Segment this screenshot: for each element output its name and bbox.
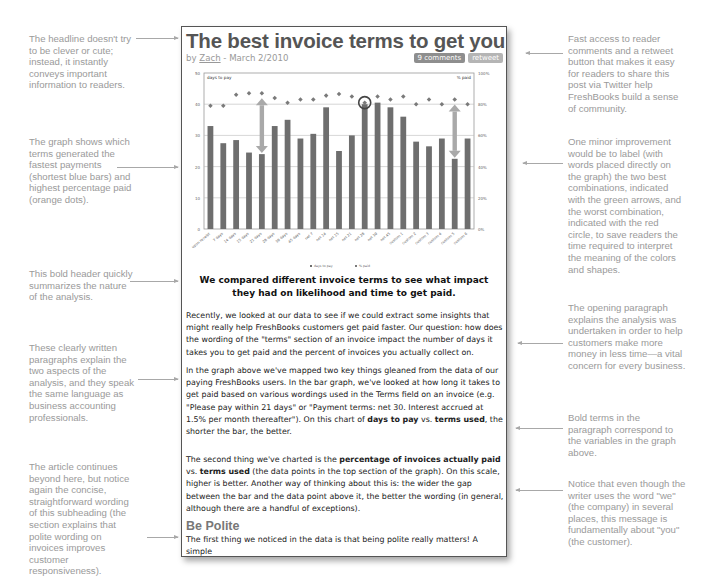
bar	[413, 142, 419, 229]
y-tick-label: 50	[195, 71, 201, 76]
best-arrow-shaft	[453, 112, 457, 151]
paragraph-intro: Recently, we looked at our data to see i…	[186, 310, 504, 359]
annotation-subheading: The article continues beyond here, but n…	[29, 461, 135, 577]
x-tick-label: upon receipt	[191, 231, 211, 249]
bar	[452, 159, 458, 229]
annotation-opening: The opening paragraph explains the analy…	[568, 302, 686, 372]
x-tick-label: net 30	[367, 231, 379, 242]
bar	[426, 146, 432, 229]
legend-swatch-dots	[355, 265, 357, 267]
bold-days-to-pay: days to pay	[367, 415, 418, 424]
post-date: March 2/2010	[229, 53, 288, 63]
annotation-you: Notice that even though the writer uses …	[568, 478, 686, 548]
bar	[233, 140, 239, 229]
annotation-improvement: One minor improvement would be to label …	[568, 136, 686, 275]
bold-terms-used: terms used	[435, 415, 485, 424]
legend-label: % paid	[359, 264, 370, 268]
comments-button[interactable]: 9 comments	[414, 53, 466, 63]
y-tick-label: 40	[195, 102, 201, 107]
chart-canvas: 00%1020%2040%3060%4080%50100%days to pay…	[190, 67, 498, 272]
annotation-headline: The headline doesn't try to be clever or…	[29, 33, 135, 91]
social-buttons: 9 comments retweet	[414, 53, 503, 63]
byline-sep: -	[221, 53, 230, 63]
invoice-terms-chart: 00%1020%2040%3060%4080%50100%days to pay…	[190, 67, 498, 272]
bar	[208, 126, 214, 229]
annotation-arrow-you	[516, 490, 563, 491]
retweet-button[interactable]: retweet	[468, 53, 503, 63]
annotation-arrow-bold-terms	[516, 428, 563, 429]
bold-terms-used-2: terms used	[200, 467, 250, 476]
bar	[220, 143, 226, 229]
bar	[259, 154, 265, 229]
author-link[interactable]: Zach	[199, 53, 220, 63]
x-tick-label: net 15	[328, 232, 339, 243]
byline-prefix: by	[186, 53, 199, 63]
legend-swatch-bars	[310, 265, 312, 267]
bar	[336, 151, 342, 229]
article-headline: The best invoice terms to get you paid f…	[186, 29, 507, 53]
legend-label: days to pay	[314, 264, 333, 268]
y-axis-label: days to pay	[207, 75, 232, 80]
annotation-arrow-community	[526, 53, 563, 54]
y-tick-label: 10	[195, 196, 201, 201]
paragraph-days-to-pay: In the graph above we've mapped two key …	[186, 365, 504, 438]
y2-tick-label: 0%	[478, 227, 485, 232]
x-tick-label: net 14	[315, 231, 327, 242]
x-tick-label: 15 days	[236, 232, 250, 244]
bar	[388, 107, 394, 229]
x-tick-label: 28 days	[262, 232, 276, 244]
y-tick-label: 0	[197, 227, 200, 232]
annotation-arrow-subheading	[147, 537, 178, 538]
annotation-arrow-graph	[117, 167, 178, 168]
y2-tick-label: 40%	[478, 165, 487, 170]
x-tick-label: 14 days	[223, 232, 237, 244]
annotation-arrow-headline	[136, 38, 178, 39]
chart-caption-heading: We compared different invoice terms to s…	[192, 274, 496, 300]
y2-tick-label: 20%	[478, 196, 487, 201]
best-arrow-shaft	[260, 105, 264, 146]
bar	[375, 103, 381, 229]
annotation-bold-terms: Bold terms in the paragraph correspond t…	[568, 412, 686, 458]
bar	[285, 120, 291, 229]
y2-tick-label: 100%	[478, 71, 490, 76]
paragraph-percent-paid: The second thing we've charted is the pe…	[186, 454, 504, 515]
bar	[362, 104, 368, 229]
annotation-arrow-improvement	[523, 163, 563, 164]
x-tick-label: custom 6	[453, 231, 469, 245]
x-tick-label: net 21	[341, 232, 352, 243]
y2-tick-label: 60%	[478, 133, 487, 138]
x-tick-label: net 28	[354, 231, 366, 242]
bar	[246, 153, 252, 229]
y-tick-label: 30	[195, 133, 201, 138]
p3-text: The second thing we've charted is the	[186, 455, 339, 464]
paragraph-polite: The first thing we noticed in the data i…	[186, 534, 504, 557]
annotation-arrow-opening	[518, 343, 563, 344]
y2-axis-label: % paid	[457, 75, 472, 80]
y-tick-label: 20	[195, 165, 201, 170]
p3-vs: vs.	[186, 467, 200, 476]
x-tick-label: 30 days	[275, 232, 289, 244]
annotation-header: This bold header quickly summarizes the …	[29, 268, 135, 303]
annotation-arrow-paragraphs	[138, 379, 178, 380]
annotation-graph: The graph shows which terms generated th…	[29, 136, 135, 206]
bar	[298, 139, 304, 229]
p2-vs: vs.	[418, 415, 434, 424]
bar	[465, 139, 471, 229]
bar	[310, 134, 316, 229]
x-tick-label: net 7	[304, 232, 314, 241]
annotation-community: Fast access to reader comments and a ret…	[568, 33, 686, 114]
bar	[272, 126, 278, 229]
bar	[439, 139, 445, 229]
bar	[400, 117, 406, 229]
x-tick-label: 21 days	[249, 232, 263, 244]
subheading-be-polite: Be Polite	[186, 519, 240, 533]
article-screenshot: The best invoice terms to get you paid f…	[181, 26, 507, 557]
x-tick-label: 45 days	[288, 232, 302, 244]
y2-tick-label: 80%	[478, 102, 487, 107]
byline: by Zach - March 2/2010	[186, 53, 288, 63]
bold-percent-paid: percentage of invoices actually paid	[339, 455, 500, 464]
bar	[323, 107, 329, 229]
annotation-arrow-header	[130, 281, 178, 282]
annotation-paragraphs: These clearly written paragraphs explain…	[29, 342, 135, 423]
bar	[349, 135, 355, 229]
